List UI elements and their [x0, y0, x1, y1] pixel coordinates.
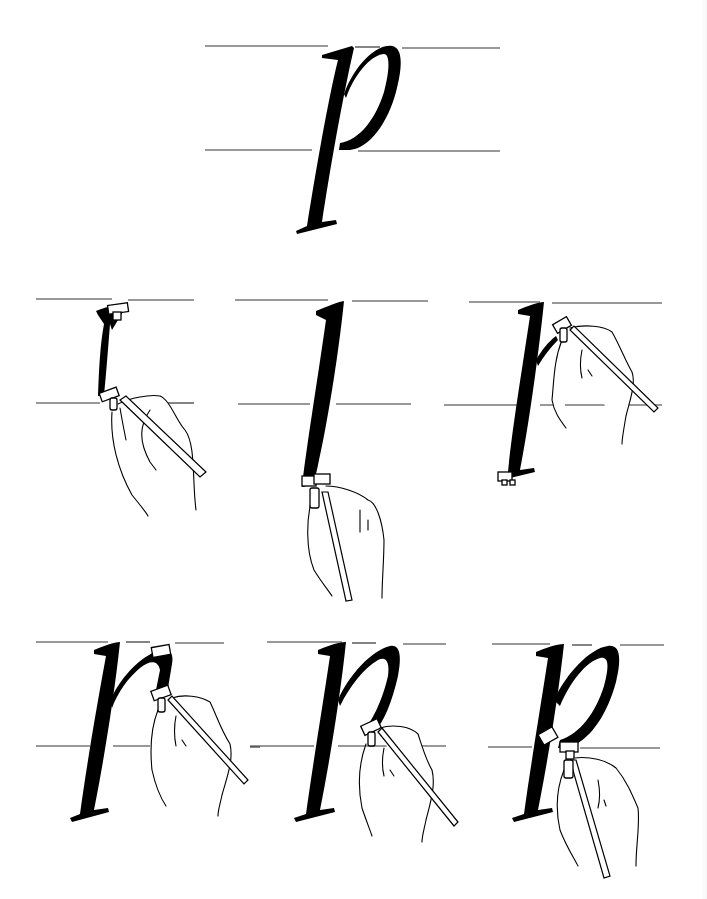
hand-with-pen-icon	[359, 719, 458, 842]
scan-edge	[701, 0, 707, 899]
step-5-illustration	[250, 620, 480, 850]
stroke-stem-with-foot	[500, 302, 544, 480]
step-2-illustration	[230, 280, 440, 610]
hand-with-pen-icon	[552, 317, 658, 444]
step-2-panel: Step 2	[230, 280, 440, 610]
hand-with-pen-icon	[557, 742, 638, 878]
hand-with-pen-icon	[302, 474, 384, 601]
step-6-illustration	[480, 620, 707, 899]
hand-with-pen-icon	[99, 387, 206, 516]
step-6-panel: Step 6	[480, 620, 707, 899]
stroke-stem	[70, 642, 120, 822]
guide-lines	[250, 642, 446, 746]
step-5-panel: Step 5	[250, 620, 480, 850]
step-4-illustration	[0, 620, 250, 850]
pen-nib-icon	[498, 472, 515, 485]
model-letter-illustration	[0, 0, 707, 260]
model-letter-panel: p	[0, 0, 707, 260]
stroke-stem	[302, 301, 344, 487]
step-4-panel: Step 4	[0, 620, 250, 850]
step-1-panel: Step 1	[0, 280, 230, 540]
step-3-illustration	[440, 280, 707, 520]
letter-p-glyph	[296, 46, 401, 234]
stroke-stem	[294, 642, 346, 822]
step-3-panel: Step 3	[440, 280, 707, 520]
stroke-bowl-right	[338, 646, 400, 732]
guide-lines	[205, 46, 500, 151]
step-1-illustration	[0, 280, 230, 540]
stroke-bowl-closed	[554, 646, 619, 748]
